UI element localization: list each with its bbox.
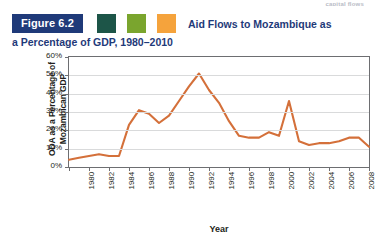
figure-title-line-1: Aid Flows to Mozambique as bbox=[188, 17, 332, 31]
y-axis-tick-label: 20% bbox=[46, 125, 62, 133]
color-swatch-group bbox=[97, 14, 176, 33]
x-axis-tick-label: 1998 bbox=[268, 172, 276, 189]
plot-area bbox=[68, 56, 370, 168]
y-axis-tick-label: 40% bbox=[46, 89, 62, 97]
x-axis-tickmark bbox=[349, 167, 350, 171]
x-axis-tickmark bbox=[109, 167, 110, 171]
x-axis-tick-label: 2000 bbox=[288, 172, 296, 189]
y-axis-tick-label: 60% bbox=[46, 52, 62, 60]
x-axis-tickmark bbox=[209, 167, 210, 171]
x-axis-title: Year bbox=[68, 224, 370, 234]
swatch-olive-green-icon bbox=[127, 14, 146, 33]
y-axis-tick-label: 30% bbox=[46, 107, 62, 115]
series-line-oda bbox=[69, 74, 369, 160]
swatch-dark-green-icon bbox=[97, 14, 116, 33]
y-axis-tickmark bbox=[65, 94, 69, 95]
chart-container: ODA as a Percentage of Mozambican GDP 60… bbox=[0, 46, 380, 244]
x-axis-tickmark bbox=[169, 167, 170, 171]
figure-header-row: Figure 6.2 Aid Flows to Mozambique as bbox=[12, 14, 368, 33]
figure-number-badge: Figure 6.2 bbox=[12, 14, 83, 33]
x-axis-tickmark bbox=[289, 167, 290, 171]
x-axis-tickmark bbox=[229, 167, 230, 171]
running-head: capital flows bbox=[325, 0, 364, 6]
x-axis-tickmark bbox=[149, 167, 150, 171]
y-axis-tickmark bbox=[65, 57, 69, 58]
swatch-orange-icon bbox=[157, 14, 176, 33]
x-axis-tick-label: 2004 bbox=[328, 172, 336, 189]
x-axis-tick-label: 2002 bbox=[308, 172, 316, 189]
x-axis-tick-label: 1992 bbox=[208, 172, 216, 189]
x-axis-tick-label: 1982 bbox=[108, 172, 116, 189]
y-axis-tickmark bbox=[65, 112, 69, 113]
x-axis-tickmark bbox=[249, 167, 250, 171]
x-axis-tickmark bbox=[269, 167, 270, 171]
x-axis-tickmark bbox=[309, 167, 310, 171]
y-axis-tickmark bbox=[65, 149, 69, 150]
x-axis-tickmark bbox=[129, 167, 130, 171]
x-axis-tick-label: 1994 bbox=[228, 172, 236, 189]
x-axis-tickmark bbox=[89, 167, 90, 171]
x-axis-tickmark bbox=[189, 167, 190, 171]
x-axis-tick-label: 1990 bbox=[188, 172, 196, 189]
y-axis-tickmark bbox=[65, 75, 69, 76]
figure-header: Figure 6.2 Aid Flows to Mozambique as a … bbox=[12, 14, 368, 49]
x-axis-tick-label: 1996 bbox=[248, 172, 256, 189]
x-axis-tick-label: 1980 bbox=[88, 172, 96, 189]
x-axis-tick-label: 1986 bbox=[148, 172, 156, 189]
x-axis-tick-label: 1988 bbox=[168, 172, 176, 189]
y-axis-tick-label: 50% bbox=[46, 70, 62, 78]
x-axis-tick-label: 2006 bbox=[348, 172, 356, 189]
gridline bbox=[69, 130, 369, 131]
y-axis-tick-label: 0% bbox=[50, 162, 62, 170]
gridline bbox=[69, 112, 369, 113]
gridline bbox=[69, 75, 369, 76]
x-axis-tick-label: 1984 bbox=[128, 172, 136, 189]
gridline bbox=[69, 149, 369, 150]
y-axis-tick-label: 10% bbox=[46, 144, 62, 152]
x-axis-tick-label: 2008 bbox=[368, 172, 376, 189]
y-axis-tick-labels: 60%50%40%30%20%10%0% bbox=[32, 46, 62, 174]
gridline bbox=[69, 94, 369, 95]
x-axis-tickmark bbox=[69, 167, 70, 171]
x-axis-tickmark bbox=[329, 167, 330, 171]
y-axis-tickmark bbox=[65, 130, 69, 131]
x-axis-tickmark bbox=[369, 167, 370, 171]
